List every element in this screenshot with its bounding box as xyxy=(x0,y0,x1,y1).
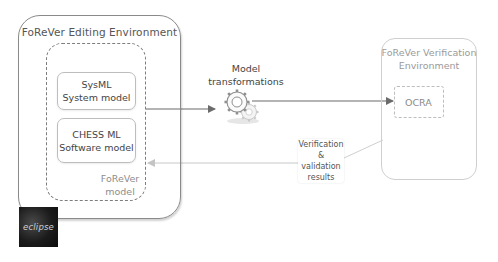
gears-icon xyxy=(225,90,260,125)
transform-label-line2: transformations xyxy=(206,75,286,88)
editing-environment-title: FoReVer Editing Environment xyxy=(18,26,181,38)
sysml-system-model-box: SysML System model xyxy=(57,72,136,110)
chess-sublabel: Software model xyxy=(59,141,133,154)
forever-model-label-line1: FoReVer xyxy=(96,172,144,185)
eclipse-logo-icon: eclipse xyxy=(19,207,58,247)
sysml-label: SysML xyxy=(62,78,130,91)
forever-model-label-line2: model xyxy=(96,185,144,198)
sysml-sublabel: System model xyxy=(62,91,130,104)
eclipse-logo-text: eclipse xyxy=(23,222,54,232)
verification-environment-title: FoReVer Verification Environment xyxy=(381,46,477,72)
forever-model-label: FoReVer model xyxy=(96,172,144,198)
results-line2: validation xyxy=(298,161,344,172)
verification-title-line2: Environment xyxy=(381,59,477,72)
ocra-tool-box: OCRA xyxy=(394,86,444,118)
chess-label: CHESS ML xyxy=(59,128,133,141)
transform-label-line1: Model xyxy=(206,62,286,75)
ocra-label: OCRA xyxy=(405,97,432,108)
results-line3: results xyxy=(298,172,344,183)
results-line1: Verification & xyxy=(298,139,344,161)
model-transformations-label: Model transformations xyxy=(206,62,286,88)
verification-results-callout: Verification & validation results xyxy=(298,139,344,183)
verification-title-line1: FoReVer Verification xyxy=(381,46,477,59)
chess-software-model-box: CHESS ML Software model xyxy=(57,118,136,163)
results-callout-pointer xyxy=(344,140,383,158)
